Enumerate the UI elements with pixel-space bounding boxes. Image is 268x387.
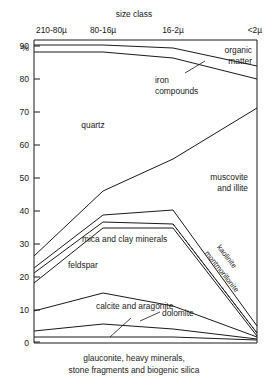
y-tick-90: 90 (19, 41, 29, 51)
y-tick-70: 70 (19, 107, 29, 117)
leader-iron-compounds (185, 61, 205, 73)
label-muscovite-illite-line1: muscovite (210, 172, 248, 182)
y-axis-ticks (34, 46, 40, 342)
y-tick-0: 0 (24, 338, 29, 348)
label-dolomite: dolomite (162, 308, 194, 318)
leader-trace-minerals (110, 318, 131, 337)
label-iron-compounds-line1: iron (155, 75, 169, 85)
top-axis-title: size class (116, 9, 152, 19)
label-mica-and-clay-minerals: mica and clay minerals (82, 234, 167, 244)
curve-iron-compounds-base (34, 52, 257, 79)
label-iron-compounds-line2: compounds (155, 86, 198, 96)
y-tick-40: 40 (19, 206, 29, 216)
size-class-label-3: <2µ (248, 25, 263, 35)
y-tick-80: 80 (19, 74, 29, 84)
size-class-label-1: 80-16µ (90, 25, 116, 35)
label-quartz: quartz (81, 120, 104, 130)
label-muscovite-illite-line2: and illite (217, 183, 248, 193)
leader-dolomite (140, 312, 160, 321)
size-class-label-0: 210-80µ (36, 25, 67, 35)
mineral-composition-chart: size class 210-80µ 80-16µ 16-2µ <2µ % 90… (0, 0, 268, 387)
figure-root: size class 210-80µ 80-16µ 16-2µ <2µ % 90… (0, 0, 268, 387)
label-feldspar: feldspar (68, 260, 98, 270)
label-trace-minerals-line2: stone fragments and biogenic silica (69, 365, 200, 375)
y-tick-50: 50 (19, 173, 29, 183)
label-organic-matter-line2: matter (228, 56, 252, 66)
label-trace-minerals-line1: glauconite, heavy minerals, (83, 353, 185, 363)
size-class-label-2: 16-2µ (162, 25, 184, 35)
y-tick-60: 60 (19, 140, 29, 150)
y-tick-20: 20 (19, 272, 29, 282)
y-tick-10: 10 (19, 305, 29, 315)
y-tick-30: 30 (19, 239, 29, 249)
label-organic-matter-line1: organic (225, 45, 252, 55)
curve-dolomite-base (34, 337, 257, 340)
curve-feldspar-base (34, 293, 257, 337)
